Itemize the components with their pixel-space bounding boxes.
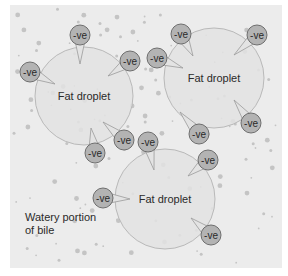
charge-label: -ve: [123, 56, 137, 67]
particle-dot: [267, 78, 270, 81]
particle-dot: [270, 165, 275, 170]
particle-dot: [15, 69, 20, 74]
particle-dot: [139, 85, 144, 90]
particle-dot: [172, 120, 174, 122]
particle-dot: [36, 41, 41, 46]
particle-dot: [262, 212, 265, 215]
particle-dot: [99, 22, 102, 25]
watery-portion-label-line2: of bile: [25, 224, 54, 236]
particle-dot: [245, 158, 248, 161]
particle-dot: [35, 254, 37, 256]
particle-dot: [115, 15, 120, 20]
bile-emulsification-diagram: Fat dropletFat dropletFat droplet -ve-ve…: [0, 0, 288, 276]
particle-dot: [81, 13, 86, 18]
particle-dot: [116, 219, 118, 221]
particle-dot: [159, 14, 162, 17]
particle-dot: [115, 54, 118, 57]
particle-dot: [35, 49, 38, 52]
fat-droplet-label: Fat droplet: [139, 193, 192, 205]
particle-dot: [95, 243, 98, 246]
particle-dot: [255, 147, 257, 149]
particle-dot: [58, 259, 61, 262]
particle-dot: [82, 251, 87, 256]
particle-dot: [265, 138, 270, 143]
charge-label: -ve: [192, 129, 206, 140]
charge-label: -ve: [23, 67, 37, 78]
particle-dot: [196, 250, 198, 252]
particle-dot: [258, 228, 260, 230]
particle-dot: [200, 253, 203, 256]
particle-dot: [170, 45, 172, 47]
particle-dot: [75, 249, 80, 254]
particle-dot: [75, 162, 77, 164]
particle-dot: [126, 125, 129, 128]
particle-dot: [129, 250, 134, 255]
charge-label: -ve: [204, 230, 218, 241]
particle-dot: [269, 149, 272, 152]
particle-dot: [77, 21, 80, 24]
particle-dot: [137, 40, 139, 42]
particle-dot: [218, 174, 223, 179]
particle-dot: [154, 79, 157, 82]
particle-dot: [93, 164, 98, 169]
charge-label: -ve: [201, 155, 215, 166]
particle-dot: [156, 91, 161, 96]
charge-label: -ve: [244, 118, 258, 129]
particle-dot: [102, 245, 104, 247]
particle-dot: [22, 28, 27, 33]
particle-dot: [245, 191, 250, 196]
charge-label: -ve: [73, 30, 87, 41]
fat-droplet-label: Fat droplet: [188, 72, 241, 84]
particle-dot: [26, 125, 31, 130]
particle-dot: [252, 142, 255, 145]
particle-dot: [131, 30, 136, 35]
charge-label: -ve: [174, 29, 188, 40]
particle-dot: [144, 67, 147, 70]
particle-dot: [79, 207, 81, 209]
charge-label: -ve: [250, 30, 264, 41]
particle-dot: [144, 16, 146, 18]
charge-label: -ve: [117, 135, 131, 146]
particle-dot: [218, 183, 223, 188]
particle-dot: [143, 114, 148, 119]
particle-dot: [85, 204, 87, 206]
particle-dot: [15, 13, 20, 18]
charge-label: -ve: [141, 137, 155, 148]
fat-droplet-label: Fat droplet: [58, 90, 111, 102]
particle-dot: [149, 68, 154, 73]
particle-dot: [29, 197, 31, 199]
watery-portion-label: Watery portion: [25, 211, 96, 223]
particle-dot: [26, 247, 29, 250]
particle-dot: [105, 27, 110, 32]
particle-dot: [250, 177, 252, 179]
particle-dot: [160, 131, 165, 136]
particle-dot: [108, 157, 111, 160]
particle-dot: [143, 21, 146, 24]
particle-dot: [119, 35, 122, 38]
particle-dot: [69, 42, 71, 44]
particle-dot: [15, 201, 17, 203]
charge-label: -ve: [150, 53, 164, 64]
particle-dot: [271, 216, 273, 218]
charge-label: -ve: [88, 148, 102, 159]
particle-dot: [30, 109, 33, 112]
particle-dot: [13, 132, 16, 135]
particle-dot: [18, 55, 20, 57]
particle-dot: [52, 179, 57, 184]
particle-dot: [99, 34, 102, 37]
particle-dot: [144, 121, 147, 124]
particle-dot: [275, 124, 277, 126]
particle-dot: [74, 196, 79, 201]
charge-label: -ve: [96, 193, 110, 204]
particle-dot: [56, 8, 59, 11]
particle-dot: [235, 262, 237, 264]
particle-dot: [29, 97, 34, 102]
particle-dot: [55, 243, 57, 245]
